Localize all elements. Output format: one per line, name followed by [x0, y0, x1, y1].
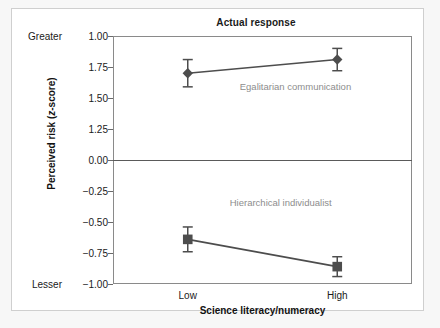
zero-reference-line	[113, 160, 412, 161]
x-axis-tick-low: Low	[153, 290, 223, 301]
x-axis-tick-high: High	[302, 290, 372, 301]
figure-container: Actual response Greater Lesser Perceived…	[0, 0, 440, 328]
y-axis-tick-mark	[108, 284, 113, 285]
series-annotation-hierarchical: Hierarchical individualist	[230, 197, 332, 208]
plot-area	[113, 36, 412, 284]
x-axis-title: Science literacy/numeracy	[113, 305, 412, 316]
y-axis-tick-marks	[0, 36, 120, 284]
series-annotation-egalitarian: Egalitarian communication	[240, 81, 351, 92]
chart-title: Actual response	[100, 17, 412, 28]
